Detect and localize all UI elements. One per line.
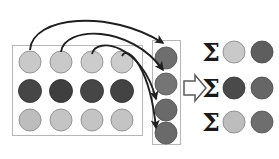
grid-cell-r2c1 [50, 109, 72, 131]
sum-row-0-circle-1 [251, 41, 273, 63]
grid-cell-r1c2 [81, 80, 104, 103]
sum-row-1-circle-1 [251, 77, 273, 99]
sum-row-2-circle-1 [251, 111, 273, 133]
grid-cell-r2c3 [111, 109, 133, 131]
diagram-canvas: Σ Σ Σ [0, 0, 279, 159]
grid-cell-r1c1 [50, 80, 73, 103]
sum-row-0-sigma: Σ [202, 38, 220, 67]
pooled-cell-3 [155, 122, 177, 144]
pooled-cell-0 [155, 47, 177, 69]
grid-cell-r1c0 [19, 80, 42, 103]
grid-cell-r0c0 [19, 51, 41, 73]
sum-row-2-circle-0 [223, 111, 245, 133]
grid-cell-r1c3 [111, 80, 134, 103]
diagram-svg: Σ Σ Σ [0, 0, 279, 159]
pooled-cell-2 [155, 99, 177, 121]
sum-row-1-sigma: Σ [202, 74, 220, 103]
sum-row-2-sigma: Σ [202, 108, 220, 137]
grid-cell-r2c2 [81, 109, 103, 131]
grid-cell-r0c1 [50, 51, 72, 73]
pooled-cell-1 [155, 73, 177, 95]
sum-row-0-circle-0 [223, 41, 245, 63]
sum-row-1-circle-0 [223, 77, 245, 99]
grid-cell-r0c2 [81, 51, 103, 73]
grid-cell-r2c0 [19, 109, 41, 131]
